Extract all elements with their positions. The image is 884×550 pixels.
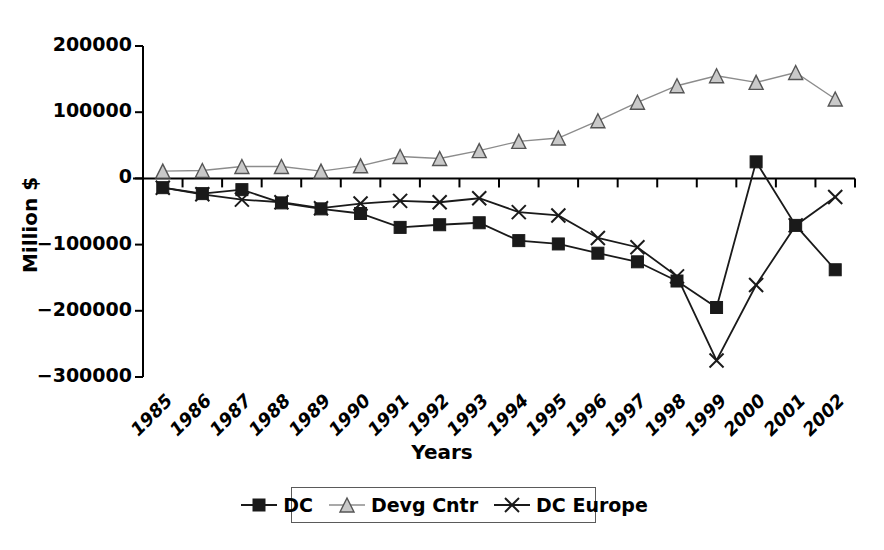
series-devg-cntr bbox=[156, 65, 842, 178]
axis-layer bbox=[133, 46, 855, 377]
plot-area bbox=[0, 0, 884, 550]
marker-square bbox=[355, 207, 367, 219]
marker-square bbox=[473, 217, 485, 229]
marker-square bbox=[315, 203, 327, 215]
marker-square bbox=[671, 275, 683, 287]
series-dc-europe bbox=[156, 181, 842, 368]
marker-square bbox=[236, 184, 248, 196]
chart-container: Million $ 2000001000000−100000−200000−30… bbox=[0, 0, 884, 550]
series-line bbox=[163, 72, 835, 171]
marker-square bbox=[513, 235, 525, 247]
chart-legend: DCDevg CntrDC Europe bbox=[291, 487, 596, 523]
marker-triangle bbox=[472, 144, 486, 158]
marker-square bbox=[157, 182, 169, 194]
marker-square bbox=[711, 301, 723, 313]
marker-triangle bbox=[828, 92, 842, 106]
legend-item[interactable]: Devg Cntr bbox=[327, 494, 478, 516]
marker-square bbox=[253, 499, 265, 511]
marker-square bbox=[434, 219, 446, 231]
open-triangle-marker bbox=[327, 495, 367, 515]
legend-label: DC Europe bbox=[536, 494, 648, 516]
marker-triangle bbox=[630, 95, 644, 109]
marker-square bbox=[394, 221, 406, 233]
marker-triangle bbox=[789, 65, 803, 79]
marker-square bbox=[631, 256, 643, 268]
legend-item[interactable]: DC Europe bbox=[492, 494, 648, 516]
marker-triangle bbox=[670, 79, 684, 93]
legend-label: Devg Cntr bbox=[371, 494, 478, 516]
x-axis-title: Years bbox=[0, 440, 884, 464]
marker-triangle bbox=[749, 75, 763, 89]
cross-x-marker bbox=[492, 495, 532, 515]
series-layer bbox=[156, 65, 842, 367]
legend-label: DC bbox=[283, 494, 313, 516]
marker-square bbox=[196, 188, 208, 200]
marker-square bbox=[750, 156, 762, 168]
legend-item[interactable]: DC bbox=[239, 494, 313, 516]
marker-square bbox=[592, 247, 604, 259]
series-line bbox=[163, 188, 835, 361]
marker-square bbox=[829, 264, 841, 276]
marker-square bbox=[275, 197, 287, 209]
marker-square bbox=[790, 219, 802, 231]
filled-square-marker bbox=[239, 495, 279, 515]
marker-triangle bbox=[591, 114, 605, 128]
marker-triangle bbox=[710, 69, 724, 83]
marker-square bbox=[552, 238, 564, 250]
